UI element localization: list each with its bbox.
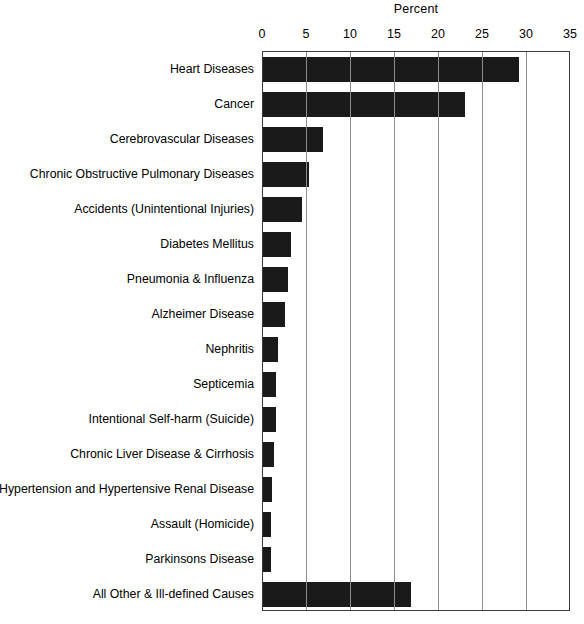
category-label: Cerebrovascular Diseases [0, 132, 254, 146]
category-label: Heart Diseases [0, 62, 254, 76]
bar [263, 92, 465, 117]
bars-layer [263, 52, 569, 610]
category-labels: Heart DiseasesCancerCerebrovascular Dise… [0, 51, 258, 611]
gridline [526, 52, 527, 610]
bar [263, 442, 274, 467]
x-tick-label: 10 [330, 27, 370, 41]
category-label: Chronic Obstructive Pulmonary Diseases [0, 167, 254, 181]
x-axis-tick-labels: 05101520253035 [0, 27, 584, 45]
category-label: Chronic Liver Disease & Cirrhosis [0, 447, 254, 461]
x-tick-label: 15 [374, 27, 414, 41]
x-tick-label: 25 [462, 27, 502, 41]
bar [263, 267, 288, 292]
gridline [394, 52, 395, 610]
bar [263, 582, 411, 607]
category-label: Diabetes Mellitus [0, 237, 254, 251]
x-tick-label: 35 [550, 27, 584, 41]
x-tick-label: 5 [286, 27, 326, 41]
bar [263, 477, 272, 502]
bar [263, 407, 276, 432]
category-label: Assault (Homicide) [0, 517, 254, 531]
category-label: Accidents (Unintentional Injuries) [0, 202, 254, 216]
bar [263, 57, 519, 82]
bar [263, 232, 291, 257]
gridline [350, 52, 351, 610]
category-label: Nephritis [0, 342, 254, 356]
bar [263, 337, 278, 362]
bar [263, 197, 302, 222]
bar [263, 162, 309, 187]
plot-area [262, 51, 570, 611]
bar [263, 302, 285, 327]
gridline [306, 52, 307, 610]
x-tick-label: 20 [418, 27, 458, 41]
category-label: Pneumonia & Influenza [0, 272, 254, 286]
gridline [438, 52, 439, 610]
bar [263, 547, 271, 572]
category-label: Hypertension and Hypertensive Renal Dise… [0, 482, 254, 496]
axis-title-percent: Percent [262, 2, 570, 16]
gridline [482, 52, 483, 610]
category-label: Intentional Self-harm (Suicide) [0, 412, 254, 426]
category-label: All Other & Ill-defined Causes [0, 587, 254, 601]
bar [263, 512, 271, 537]
bar [263, 372, 276, 397]
bar [263, 127, 323, 152]
category-label: Alzheimer Disease [0, 307, 254, 321]
category-label: Parkinsons Disease [0, 552, 254, 566]
x-tick-label: 0 [242, 27, 282, 41]
category-label: Septicemia [0, 377, 254, 391]
category-label: Cancer [0, 97, 254, 111]
x-tick-label: 30 [506, 27, 546, 41]
percent-cause-of-death-bar-chart: Percent 05101520253035 Heart DiseasesCan… [0, 0, 584, 624]
